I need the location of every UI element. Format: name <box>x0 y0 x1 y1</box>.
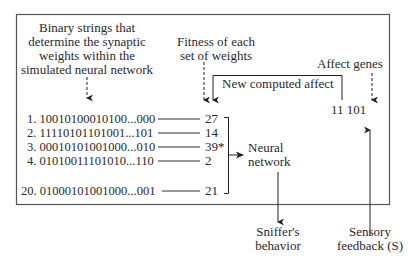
population-row-label: 4. 01010011101010...110 <box>27 154 154 168</box>
population-row-label: 3. 00010101001000...010 <box>27 140 155 154</box>
population-row-fitness: 27 <box>205 112 218 126</box>
affect-genes-value: 11 101 <box>331 103 366 117</box>
sniffer-behavior-label: Sniffer's behavior <box>243 225 313 253</box>
new-affect-label: New computed affect <box>222 77 334 91</box>
population-row-fitness: 39* <box>205 140 225 154</box>
affect-genes-label: Affect genes <box>317 57 383 71</box>
population-row-label: 2. 11110101101001...101 <box>27 126 153 140</box>
neural-network-label: Neural network <box>248 141 291 169</box>
population-bracket <box>224 118 229 194</box>
population-row-fitness: 21 <box>205 184 218 198</box>
fitness-label: Fitness of each set of weights <box>166 35 266 63</box>
sensory-feedback-label: Sensory feedback (S) <box>330 225 408 253</box>
population-row-label: 20. 01000101001000...001 <box>21 184 155 198</box>
population-row-label: 1. 10010100010100...000 <box>27 112 155 126</box>
population-row-fitness: 2 <box>205 154 212 168</box>
population-row-fitness: 14 <box>205 126 218 140</box>
binary-strings-label: Binary strings that determine the synapt… <box>17 21 157 77</box>
